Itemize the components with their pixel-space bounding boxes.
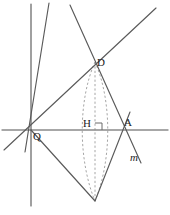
point-label-d: D [97, 57, 105, 68]
construction-lines-group [2, 3, 168, 206]
point-label-o: Q [33, 131, 41, 142]
point-label-a: A [124, 117, 132, 128]
lens-left-arc [82, 62, 95, 201]
right-angle-marker-icon [95, 123, 102, 130]
line-O-to-D-extended [4, 8, 156, 150]
line-label-m: m [130, 152, 138, 163]
point-label-h: H [83, 118, 91, 129]
line-m-through-D-and-A [70, 5, 141, 163]
figure-canvas [0, 0, 170, 215]
lens-right-arc [95, 62, 108, 201]
dashed-lens-group [82, 62, 108, 201]
geometry-figure: D Q H A m [0, 0, 170, 215]
